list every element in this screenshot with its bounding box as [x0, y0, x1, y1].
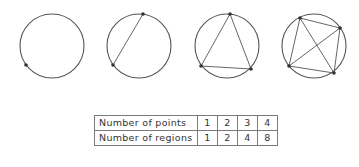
point-dot [338, 26, 342, 30]
point-dot [24, 63, 28, 67]
circle-outline [20, 14, 84, 78]
point-dot [111, 63, 115, 67]
table-cell: 2 [218, 131, 238, 146]
table-cell: 2 [218, 116, 238, 131]
row-label: Number of points [95, 116, 198, 131]
point-dot [298, 16, 302, 20]
circle-3 [195, 12, 259, 78]
table-row-regions: Number of regions 1 2 4 8 [95, 131, 278, 146]
point-dot [141, 12, 145, 16]
table-cell: 1 [198, 116, 218, 131]
points-regions-table: Number of points 1 2 3 4 Number of regio… [94, 115, 278, 146]
circles-diagram [0, 0, 359, 100]
table-cell: 8 [258, 131, 278, 146]
point-dot [332, 71, 336, 75]
circle-outline [282, 14, 346, 78]
point-dot [228, 12, 232, 16]
chord-line [300, 18, 340, 28]
circle-4 [282, 14, 346, 78]
point-dot [249, 67, 253, 71]
circle-outline [107, 14, 171, 78]
table-cell: 4 [238, 131, 258, 146]
circle-1 [20, 14, 84, 78]
table-cell: 3 [238, 116, 258, 131]
circle-2 [107, 12, 171, 78]
table-row-points: Number of points 1 2 3 4 [95, 116, 278, 131]
circle-chord-figure [0, 0, 359, 100]
table-cell: 4 [258, 116, 278, 131]
point-dot [287, 64, 291, 68]
chord-line [201, 66, 251, 69]
row-label: Number of regions [95, 131, 198, 146]
point-dot [199, 64, 203, 68]
table-cell: 1 [198, 131, 218, 146]
